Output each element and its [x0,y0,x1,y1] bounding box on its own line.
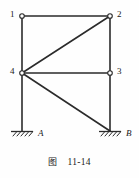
member-diagonal-4-B [22,73,110,131]
joint-node-3 [108,71,113,76]
node-label-2: 2 [117,10,122,19]
joint-node-4 [20,71,25,76]
support-label-A: A [38,129,44,138]
support-A [11,132,33,137]
node-label-1: 1 [10,10,15,19]
node-label-3: 3 [117,67,122,76]
support-B-hatching [101,132,121,136]
joint-node-1 [20,14,25,19]
support-B [99,132,121,137]
support-A-hatching [13,132,33,136]
support-label-B: B [126,129,132,138]
figure-caption: 图11-14 [0,155,139,168]
joint-node-2 [108,14,113,19]
member-diagonal-4-2 [22,16,110,73]
caption-figure-number: 11-14 [68,157,91,167]
caption-figure-word: 图 [48,157,57,167]
figure-container: 1 2 3 4 A B 图11-14 [0,0,139,178]
node-label-4: 4 [10,67,15,76]
truss-diagram [0,0,139,178]
